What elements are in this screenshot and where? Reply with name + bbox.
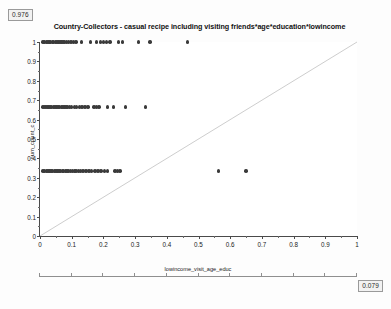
plot-area: 10.90.80.70.60.50.40.30.20.1000.10.20.30… [39, 42, 357, 237]
x-tick-label: 1 [355, 236, 359, 248]
x-minor-tick [278, 236, 279, 238]
data-point [97, 105, 100, 108]
y-tick-label: 0.9 [27, 58, 40, 65]
x-axis-title: lowincome_visit_age_educ [39, 266, 357, 272]
y-minor-tick [38, 168, 40, 169]
ruler-tick [166, 273, 167, 276]
data-point [148, 40, 151, 43]
data-point [108, 40, 111, 43]
x-tick-label: 0.7 [258, 236, 267, 248]
data-point [144, 105, 147, 108]
data-point [112, 105, 115, 108]
x-tick-label: 0.4 [162, 236, 171, 248]
chart-title: Country-Collectors - casual recipe inclu… [33, 22, 366, 31]
ruler-tick [229, 273, 230, 276]
y-minor-tick [38, 226, 40, 227]
x-minor-tick [119, 236, 120, 238]
bottom-ruler [39, 276, 357, 277]
x-minor-tick [214, 236, 215, 238]
ruler-tick [102, 273, 103, 276]
y-minor-tick [38, 207, 40, 208]
data-point [106, 169, 109, 172]
y-axis-title: num_count_c [29, 125, 35, 160]
bottom-right-value-badge: 0.079 [358, 280, 383, 292]
data-points-layer [40, 42, 357, 236]
x-tick-label: 0.3 [131, 236, 140, 248]
y-tick-label: 1 [32, 39, 40, 46]
y-minor-tick [38, 91, 40, 92]
y-minor-tick [38, 71, 40, 72]
y-minor-tick [38, 149, 40, 150]
data-point [95, 40, 98, 43]
data-point [106, 105, 109, 108]
data-point [124, 105, 127, 108]
x-tick-label: 0.9 [321, 236, 330, 248]
data-point [74, 40, 77, 43]
data-point [117, 40, 120, 43]
x-tick-label: 0.5 [194, 236, 203, 248]
y-tick-label: 0.8 [27, 77, 40, 84]
x-tick-label: 0 [38, 236, 42, 248]
x-tick-label: 0.2 [99, 236, 108, 248]
data-point [217, 169, 220, 172]
y-minor-tick [38, 110, 40, 111]
chart-container: Country-Collectors - casual recipe inclu… [33, 22, 366, 273]
data-point [244, 169, 247, 172]
y-tick-label: 0.3 [27, 174, 40, 181]
x-minor-tick [151, 236, 152, 238]
data-point [137, 40, 140, 43]
y-tick-label: 0.1 [27, 213, 40, 220]
x-minor-tick [183, 236, 184, 238]
x-minor-tick [341, 236, 342, 238]
ruler-tick [71, 273, 72, 276]
y-minor-tick [38, 188, 40, 189]
x-minor-tick [309, 236, 310, 238]
ruler-tick [356, 273, 357, 276]
data-point [118, 169, 121, 172]
data-point [86, 105, 89, 108]
data-point [80, 40, 83, 43]
data-point [186, 40, 189, 43]
x-minor-tick [246, 236, 247, 238]
x-tick-label: 0.8 [289, 236, 298, 248]
ruler-tick [324, 273, 325, 276]
ruler-tick [198, 273, 199, 276]
y-minor-tick [38, 129, 40, 130]
top-left-value-badge: 0.976 [8, 9, 33, 21]
ruler-tick [134, 273, 135, 276]
y-tick-label: 0.6 [27, 116, 40, 123]
x-minor-tick [56, 236, 57, 238]
x-minor-tick [88, 236, 89, 238]
ruler-tick [261, 273, 262, 276]
x-tick-label: 0.1 [67, 236, 76, 248]
y-minor-tick [38, 52, 40, 53]
data-point [89, 40, 92, 43]
ruler-tick [39, 273, 40, 276]
data-point [121, 40, 124, 43]
ruler-tick [293, 273, 294, 276]
y-tick-label: 0.7 [27, 97, 40, 104]
scatter-plot-window: 0.976 0.079 Country-Collectors - casual … [0, 0, 391, 309]
x-tick-label: 0.6 [226, 236, 235, 248]
y-tick-label: 0.2 [27, 194, 40, 201]
